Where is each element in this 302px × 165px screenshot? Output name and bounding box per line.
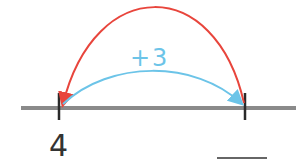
forward-arrow: [63, 71, 241, 104]
jump-label: +3: [130, 44, 169, 72]
number-line-diagram: [0, 0, 302, 165]
start-number: 4: [49, 128, 68, 163]
